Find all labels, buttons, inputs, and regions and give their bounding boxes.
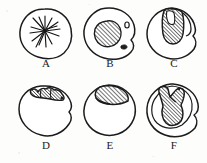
column-pale-gap [166,11,174,25]
panel-e-group [84,85,135,135]
satellite-mark-upper [125,22,129,28]
panel-a-group [20,9,72,59]
spindle-center [44,30,47,33]
figure-container: A B C D E F [0,0,207,163]
panel-label-b: B [100,57,120,69]
satellite-mark-lower [121,45,127,49]
panel-label-a: A [36,57,56,69]
funnel-top-dot [178,88,180,90]
panel-label-f: F [164,139,184,151]
panel-b-group [84,8,135,59]
panel-label-e: E [100,139,120,151]
band-end-dot [61,97,64,100]
band-lobe-divider-one [40,90,41,98]
panel-c-group [147,8,196,59]
panel-a-outline [20,9,72,59]
central-hatched-blob [94,21,121,47]
panel-d-group [19,86,71,136]
panel-label-c: C [164,57,184,69]
panel-f-group [147,84,198,137]
panel-label-d: D [36,139,56,151]
